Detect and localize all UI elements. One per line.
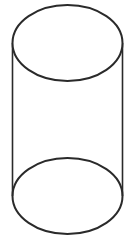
cylinder-diagram (0, 0, 130, 250)
cylinder-top-ellipse (13, 5, 123, 81)
cylinder-bottom-ellipse (13, 158, 123, 234)
